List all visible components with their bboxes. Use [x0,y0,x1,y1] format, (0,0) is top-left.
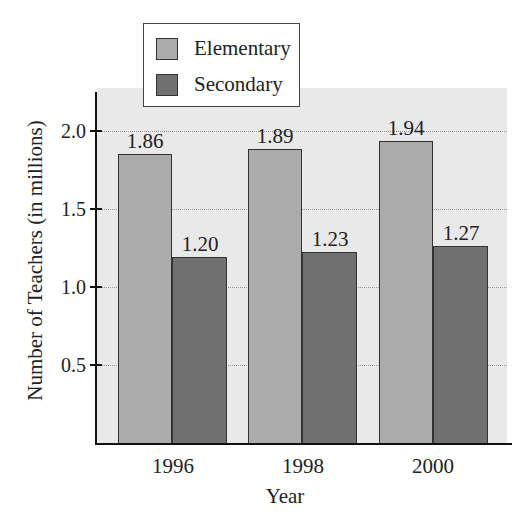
y-tick [90,364,102,366]
y-tick [90,286,102,288]
legend-swatch-secondary [156,74,178,96]
bar-secondary-1996 [172,257,227,444]
legend-swatch-elementary [156,38,178,60]
x-axis-label: Year [245,484,325,509]
bar-elementary-1996 [118,154,172,444]
x-tick-label: 1996 [133,454,213,479]
bar-elementary-2000 [379,141,433,444]
bar-secondary-2000 [433,246,488,444]
value-label: 1.23 [300,229,360,250]
value-label: 1.86 [115,131,175,152]
x-tick-label: 1998 [263,454,343,479]
bar-elementary-1998 [248,149,302,444]
legend: Elementary Secondary [143,23,300,107]
y-axis [95,92,97,445]
legend-label-elementary: Elementary [194,37,291,59]
value-label: 1.94 [376,118,436,139]
bar-secondary-1998 [302,252,357,444]
y-axis-label: Number of Teachers (in millions) [23,91,48,431]
x-tick-label: 2000 [393,454,473,479]
value-label: 1.20 [170,234,230,255]
y-tick [90,208,102,210]
y-tick [90,130,102,132]
legend-label-secondary: Secondary [194,73,283,95]
x-axis [95,443,512,445]
value-label: 1.89 [245,126,305,147]
value-label: 1.27 [431,223,491,244]
